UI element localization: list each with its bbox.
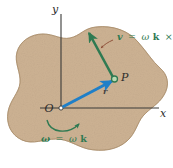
point-p-label: P [120, 71, 129, 84]
rotation-velocity-figure: y x O P r v = ω k × r ω = ω k [0, 0, 173, 168]
formula-omega: ω [142, 31, 150, 42]
figure-canvas: y x O P r v = ω k × r ω = ω k [0, 0, 173, 168]
velocity-formula-label: v = ω k × r [117, 31, 173, 42]
origin-label: O [44, 102, 53, 115]
formula-equals: = [128, 31, 136, 42]
formula-cross: × [165, 31, 173, 42]
omega-k-symbol: k [80, 133, 87, 144]
formula-v-symbol: v [117, 31, 123, 42]
x-axis-label: x [160, 107, 167, 120]
rigid-body-shape [8, 27, 168, 151]
omega-scalar-symbol: ω [69, 133, 77, 144]
omega-bold-symbol: ω [41, 133, 50, 144]
point-p-marker [112, 76, 118, 82]
y-axis-label: y [51, 3, 59, 16]
formula-k-symbol: k [153, 31, 160, 42]
angular-velocity-label: ω = ω k [41, 133, 87, 144]
omega-equals: = [56, 133, 64, 144]
